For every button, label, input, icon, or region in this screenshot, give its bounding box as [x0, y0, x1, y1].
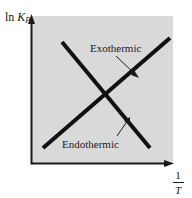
- y-axis-label-ln: ln: [5, 10, 17, 24]
- plot-canvas: [0, 0, 192, 198]
- x-axis-label: 1 T: [170, 170, 186, 196]
- x-axis-label-numerator: 1: [170, 170, 186, 181]
- x-axis-label-denominator: T: [170, 184, 186, 196]
- y-axis-label-subscript: P: [25, 16, 30, 25]
- y-axis-label: ln KP: [5, 11, 30, 25]
- thermodynamics-figure: ln KP 1 T Exothermic Endothermic: [0, 0, 192, 198]
- fraction-bar: [173, 182, 184, 183]
- exothermic-label: Exothermic: [90, 43, 141, 54]
- endothermic-label: Endothermic: [62, 139, 119, 150]
